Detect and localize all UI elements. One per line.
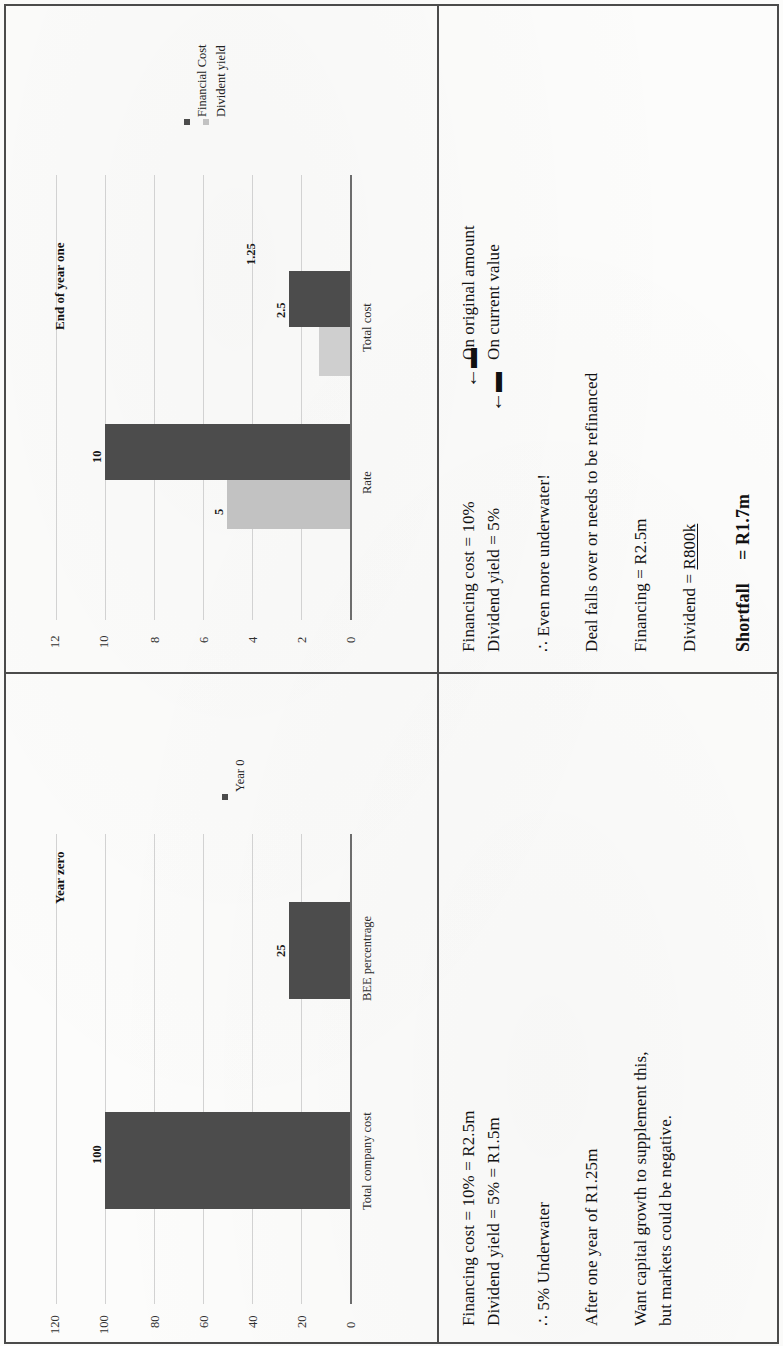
gridline [301,175,302,620]
note-financing-cost-rate: Financing cost = 10% [459,501,479,652]
bar-bee-percentrage [289,902,350,999]
y-tick-label: 8 [148,637,163,643]
note-even-more-underwater: ∴ Even more underwater! [533,474,554,652]
data-label-total-cost-financial-cost: 2.5 [274,302,289,318]
y-tick-label: 6 [197,637,212,643]
value-axis-baseline [350,175,352,620]
note-on-current-value: On current value [484,244,504,360]
chart-year-zero: 120 100 80 60 40 20 0 Total company cost… [0,674,437,1346]
note-dividend-amount-value: R800k [680,524,699,570]
gridline [203,834,204,1304]
gridline [154,834,155,1304]
data-label-bee-percentrage: 25 [274,945,289,958]
category-label-bee-percentrage: BEE percentrage [360,916,375,1001]
y-tick-label: 10 [97,636,112,649]
gridline [154,175,155,620]
legend-label-divident-yield: Divident yield [214,45,229,117]
y-tick-label: 0 [344,1322,359,1328]
bar-total-cost-financial-cost [289,271,350,327]
notes-end-of-year-one: Financing cost = 10% ←▬ On original amou… [437,0,783,672]
legend-swatch-year-0 [222,794,228,800]
data-label-rate-financial-cost: 10 [90,451,105,464]
chart-title-end-of-year-one: End of year one [52,242,68,330]
data-label-total-company-cost: 100 [90,1145,105,1164]
note-financing-cost-value: Financing cost = 10% = R2.5m [459,1110,479,1326]
y-tick-label: 20 [295,1316,310,1329]
note-after-one-year: After one year of R1.25m [582,1148,602,1326]
category-label-total-cost: Total cost [360,303,375,352]
category-label-total-company-cost: Total company cost [360,1112,375,1210]
gridline [105,175,106,620]
note-shortfall: Shortfall = R1.7m [733,494,754,652]
note-shortfall-label: Shortfall [733,583,753,652]
bar-rate-financial-cost [105,424,350,480]
gridline [252,834,253,1304]
gridline [203,175,204,620]
legend-label-year-0: Year 0 [233,760,248,792]
note-markets-could-be-negative: but markets could be negative. [656,1115,676,1326]
note-five-percent-underwater: ∴ 5% Underwater [533,1202,554,1326]
y-tick-label: 4 [246,637,261,643]
gridline [56,834,57,1304]
gridline [252,175,253,620]
data-label-total-cost-divident-yield: 1.25 [244,243,259,265]
chart-title-year-zero: Year zero [52,851,68,904]
note-want-capital-growth: Want capital growth to supplement this, [631,1052,651,1326]
category-label-rate: Rate [360,471,375,494]
y-tick-label: 60 [197,1316,212,1329]
note-on-original-amount: On original amount [459,225,479,360]
y-tick-label: 100 [97,1315,112,1334]
y-tick-label: 12 [48,636,63,649]
bar-total-cost-divident-yield [319,327,350,376]
y-tick-label: 2 [295,637,310,643]
data-label-rate-divident-yield: 5 [212,509,227,515]
legend-swatch-divident-yield [203,119,209,125]
value-axis-baseline [350,834,352,1304]
bar-rate-divident-yield [227,480,350,529]
arrow-to-current-value: ←▬ [484,372,507,412]
note-dividend-amount: Dividend = R800k [680,524,700,652]
y-tick-label: 0 [344,637,359,643]
legend-label-financial-cost: Financial Cost [195,44,210,117]
gridline [105,834,106,1304]
y-tick-label: 80 [148,1316,163,1329]
chart-end-of-year-one: 12 10 8 6 4 2 0 Rate Total cost 10 5 2.5… [0,0,437,672]
note-dividend-yield-rate: Dividend yield = 5% [484,508,504,652]
bar-total-company-cost [105,1112,350,1209]
note-dividend-yield-value: Dividend yield = 5% = R1.5m [484,1117,504,1326]
notes-year-zero: Financing cost = 10% = R2.5m Dividend yi… [437,674,783,1346]
note-dividend-amount-label: Dividend = [680,574,699,652]
note-deal-falls-over: Deal falls over or needs to be refinance… [582,373,602,652]
y-tick-label: 120 [48,1315,63,1334]
y-tick-label: 40 [246,1316,261,1329]
note-shortfall-value: = R1.7m [733,494,753,560]
legend-swatch-financial-cost [184,119,190,125]
note-financing-amount: Financing = R2.5m [631,518,651,652]
